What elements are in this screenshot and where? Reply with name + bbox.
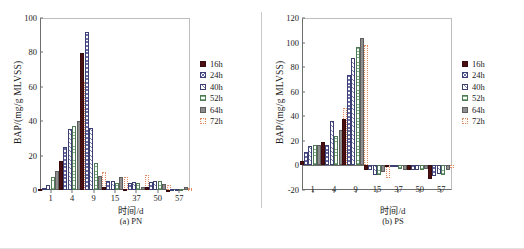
bar-24h-37 [128, 183, 132, 190]
x-axis-tick-label: 50 [154, 194, 163, 203]
bar-52h-1 [51, 177, 55, 190]
legend-label: 16h [472, 60, 485, 69]
bar-64h-57 [184, 187, 188, 190]
bar-52h-1 [313, 145, 317, 166]
bar-24h-50 [149, 182, 153, 190]
bar-40h-1 [308, 146, 312, 165]
legend-item-64h[interactable]: 64h [462, 104, 485, 116]
x-axis-tick-label: 57 [175, 194, 184, 203]
legend-item-52h[interactable]: 52h [200, 93, 223, 105]
legend-item-24h[interactable]: 24h [200, 70, 223, 82]
legend-label: 64h [210, 106, 223, 115]
bar-40h-9 [89, 128, 93, 190]
legend-swatch-icon [462, 84, 468, 90]
bar-40h-4 [68, 129, 72, 190]
bar-16h-1 [38, 189, 42, 191]
x-axis-tick-label: 50 [416, 185, 425, 194]
legend-item-40h[interactable]: 40h [462, 81, 485, 93]
bar-24h-4 [325, 145, 329, 166]
x-axis-tick-label: 15 [373, 185, 382, 194]
legend-item-72h[interactable]: 72h [200, 116, 223, 128]
legend-item-64h[interactable]: 64h [200, 104, 223, 116]
bar-40h-37 [394, 165, 398, 167]
chart-panel-ps: -2002040608010012014915375057BAP/(mg/g M… [262, 0, 524, 249]
chart-panel-pn: 02040608010014915375057BAP/(mg/g MLVSS)时… [0, 0, 262, 249]
bar-16h-50 [145, 187, 149, 190]
bar-24h-57 [432, 165, 436, 176]
bar-24h-37 [390, 165, 394, 167]
bar-16h-50 [407, 165, 411, 169]
bar-24h-1 [42, 188, 46, 190]
legend: 16h24h40h52h64h72h [200, 58, 223, 127]
bar-40h-50 [415, 165, 419, 169]
legend-item-40h[interactable]: 40h [200, 81, 223, 93]
bar-24h-50 [411, 165, 415, 169]
legend-swatch-icon [200, 95, 206, 101]
legend-swatch-icon [462, 61, 468, 67]
legend-label: 52h [210, 94, 223, 103]
bar-16h-57 [428, 165, 432, 179]
bar-40h-9 [351, 58, 355, 166]
x-axis-tick-label: 37 [132, 194, 141, 203]
legend-label: 16h [210, 60, 223, 69]
bar-16h-57 [166, 190, 170, 192]
bar-40h-50 [153, 181, 157, 190]
bar-52h-57 [441, 165, 445, 174]
legend-swatch-icon [462, 118, 468, 124]
legend-swatch-icon [462, 95, 468, 101]
legend-item-24h[interactable]: 24h [462, 70, 485, 82]
bar-16h-1 [300, 161, 304, 166]
bar-24h-9 [85, 32, 89, 190]
bar-52h-15 [377, 165, 381, 174]
bar-52h-50 [158, 181, 162, 190]
legend-swatch-icon [462, 72, 468, 78]
legend-item-52h[interactable]: 52h [462, 93, 485, 105]
bar-64h-57 [446, 165, 450, 170]
legend-swatch-icon [200, 72, 206, 78]
x-axis-tick-label: 1 [49, 194, 53, 203]
bar-24h-9 [347, 75, 351, 165]
bar-16h-9 [342, 119, 346, 165]
bar-16h-37 [385, 165, 389, 167]
legend-item-16h[interactable]: 16h [200, 58, 223, 70]
bar-40h-4 [330, 121, 334, 165]
panel-caption: (a) PN [0, 216, 262, 226]
x-axis-tick-label: 9 [91, 194, 95, 203]
legend-swatch-icon [200, 61, 206, 67]
legend: 16h24h40h52h64h72h [462, 58, 485, 127]
legend-label: 40h [210, 83, 223, 92]
bar-72h-57 [188, 188, 192, 190]
bar-52h-37 [398, 165, 402, 169]
bar-24h-15 [106, 181, 110, 190]
bar-24h-4 [63, 147, 67, 190]
x-axis-tick-label: 15 [111, 194, 120, 203]
legend-swatch-icon [200, 118, 206, 124]
bar-52h-9 [94, 163, 98, 190]
panel-divider [261, 12, 262, 208]
bar-16h-4 [59, 161, 63, 190]
bar-24h-15 [368, 165, 372, 169]
bar-40h-15 [373, 165, 377, 174]
x-axis-tick-label: 4 [332, 185, 336, 194]
bar-16h-9 [80, 53, 84, 190]
y-axis-title: BAP/(mg/g MLVSS) [275, 61, 285, 144]
legend-label: 64h [472, 106, 485, 115]
bar-52h-37 [136, 183, 140, 190]
bar-72h-57 [450, 165, 454, 167]
legend-label: 72h [472, 117, 485, 126]
bar-40h-57 [437, 165, 441, 174]
legend-item-16h[interactable]: 16h [462, 58, 485, 70]
legend-label: 72h [210, 117, 223, 126]
bar-24h-57 [170, 189, 174, 191]
panel-caption: (b) PS [262, 216, 524, 226]
plot-area: 02040608010014915375057 [40, 18, 190, 190]
bar-16h-37 [123, 189, 127, 191]
x-axis-tick-label: 9 [353, 185, 357, 194]
legend-swatch-icon [200, 107, 206, 113]
legend-item-72h[interactable]: 72h [462, 116, 485, 128]
legend-label: 52h [472, 94, 485, 103]
bar-24h-1 [304, 152, 308, 166]
bar-16h-15 [364, 165, 368, 169]
bar-52h-57 [179, 189, 183, 191]
bar-52h-9 [356, 47, 360, 165]
